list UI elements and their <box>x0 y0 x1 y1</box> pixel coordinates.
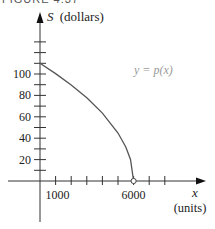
curve-label: y = p(x) <box>133 63 173 77</box>
x-axis-units: (units) <box>174 201 207 215</box>
x-tick-label: 6000 <box>122 188 146 202</box>
y-tick-label: 80 <box>19 88 31 102</box>
y-axis-symbol: S <box>47 9 54 24</box>
y-axis-label: S (dollars) <box>47 9 104 24</box>
x-axis-arrow-icon <box>196 178 206 185</box>
curve-layer <box>40 63 136 183</box>
y-axis-arrow-icon <box>37 12 44 23</box>
x-axis-symbol: x <box>191 185 198 200</box>
y-tick-label: 40 <box>19 131 31 145</box>
open-circle-marker <box>131 178 136 183</box>
demand-curve <box>40 63 134 181</box>
y-tick-label: 20 <box>19 153 31 167</box>
y-axis-units: (dollars) <box>60 9 104 24</box>
y-tick-label: 60 <box>19 110 31 124</box>
x-tick-label: 1000 <box>46 188 70 202</box>
demand-chart: 1000600020406080100 S (dollars) x (units… <box>0 0 215 229</box>
y-tick-label: 100 <box>13 67 31 81</box>
